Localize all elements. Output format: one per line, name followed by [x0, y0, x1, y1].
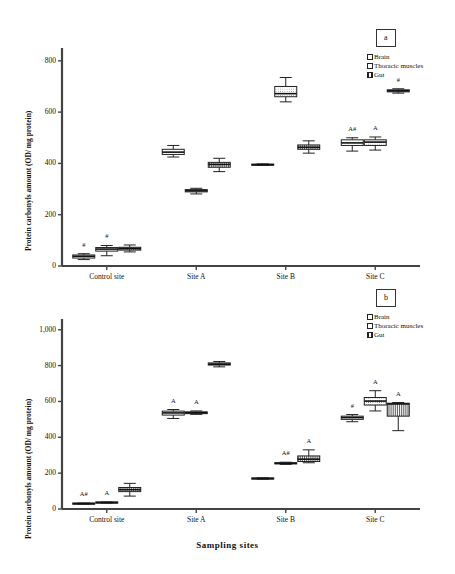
x-axis-title-b: Sampling sites	[0, 540, 455, 550]
significance-annotation: A#	[80, 490, 88, 497]
panel-tag-b: b	[376, 289, 396, 307]
legend-label-thoracic-muscles: Thoracic muscles	[374, 322, 423, 331]
legend-item-thoracic-muscles: Thoracic muscles	[367, 62, 423, 71]
x-tick-label: Site B	[276, 272, 295, 281]
legend-label-brain: Brain	[374, 313, 390, 322]
legend-item-thoracic-muscles: Thoracic muscles	[367, 322, 423, 331]
legend-label-brain: Brain	[374, 53, 390, 62]
legend-item-gut: Gut	[367, 71, 423, 80]
legend-swatch-thoracic-muscles-icon	[367, 63, 373, 69]
chart-panel-a: a Brain Thoracic muscles Gut Protein car…	[0, 0, 455, 287]
y-tick-label: 200	[16, 210, 56, 219]
significance-annotation: A	[373, 124, 378, 131]
x-tick-label: Site A	[187, 515, 206, 524]
significance-annotation: A	[373, 378, 378, 385]
x-tick-label: Site C	[366, 272, 385, 281]
y-tick-label: 400	[16, 432, 56, 441]
legend-label-gut: Gut	[374, 71, 385, 80]
significance-annotation: A	[104, 489, 109, 496]
y-tick-label: 800	[16, 361, 56, 370]
significance-annotation: A	[396, 390, 401, 397]
y-tick-label: 800	[16, 56, 56, 65]
significance-annotation: A#	[348, 125, 356, 132]
y-axis-title-a: Protein carbonyls amount (OD/ mg protein…	[24, 111, 33, 251]
legend-label-thoracic-muscles: Thoracic muscles	[374, 62, 423, 71]
legend-swatch-thoracic-muscles-icon	[367, 323, 373, 329]
significance-annotation: A	[306, 437, 311, 444]
y-tick-label: 200	[16, 468, 56, 477]
chart-panel-b: b Brain Thoracic muscles Gut Protein car…	[0, 287, 455, 574]
y-tick-label: 400	[16, 158, 56, 167]
legend-swatch-gut-icon	[367, 332, 373, 338]
x-tick-label: Site C	[366, 515, 385, 524]
legend-swatch-brain-icon	[367, 314, 373, 320]
y-tick-label: 0	[16, 261, 56, 270]
y-tick-label: 600	[16, 396, 56, 405]
x-tick-label: Control site	[89, 272, 124, 281]
legend-b: Brain Thoracic muscles Gut	[367, 313, 423, 339]
significance-annotation: A	[194, 398, 199, 405]
y-tick-label: 600	[16, 107, 56, 116]
legend-item-gut: Gut	[367, 331, 423, 340]
legend-a: Brain Thoracic muscles Gut	[367, 53, 423, 79]
figure-root: a Brain Thoracic muscles Gut Protein car…	[0, 0, 455, 574]
x-tick-label: Site B	[276, 515, 295, 524]
significance-annotation: #	[351, 402, 354, 409]
significance-annotation: #	[82, 241, 85, 248]
y-tick-label: 0	[16, 504, 56, 513]
legend-item-brain: Brain	[367, 313, 423, 322]
legend-label-gut: Gut	[374, 331, 385, 340]
legend-swatch-gut-icon	[367, 72, 373, 78]
legend-item-brain: Brain	[367, 53, 423, 62]
significance-annotation: #	[397, 76, 400, 83]
significance-annotation: A#	[282, 449, 290, 456]
x-tick-label: Control site	[89, 515, 124, 524]
y-tick-label: 1,000	[16, 325, 56, 334]
x-tick-label: Site A	[187, 272, 206, 281]
significance-annotation: #	[105, 232, 108, 239]
significance-annotation: A	[171, 397, 176, 404]
panel-tag-a: a	[376, 29, 396, 47]
legend-swatch-brain-icon	[367, 54, 373, 60]
